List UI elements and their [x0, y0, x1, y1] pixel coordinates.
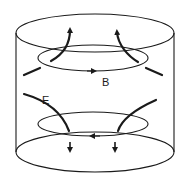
cylinder-top-ellipse — [16, 14, 174, 52]
cylinder — [16, 14, 174, 172]
lower-field-lines — [24, 94, 156, 150]
upper-left-outer-segment — [24, 68, 40, 75]
cylinder-bottom-front-arc — [16, 152, 174, 172]
upper-left-curve-arrow-icon — [51, 30, 70, 61]
cylinder-field-diagram: B E — [0, 0, 187, 179]
lower-right-curve — [118, 100, 156, 131]
cylinder-bottom-back-arc — [16, 132, 174, 152]
label-b: B — [102, 76, 109, 88]
upper-right-outer-segment — [146, 68, 162, 75]
